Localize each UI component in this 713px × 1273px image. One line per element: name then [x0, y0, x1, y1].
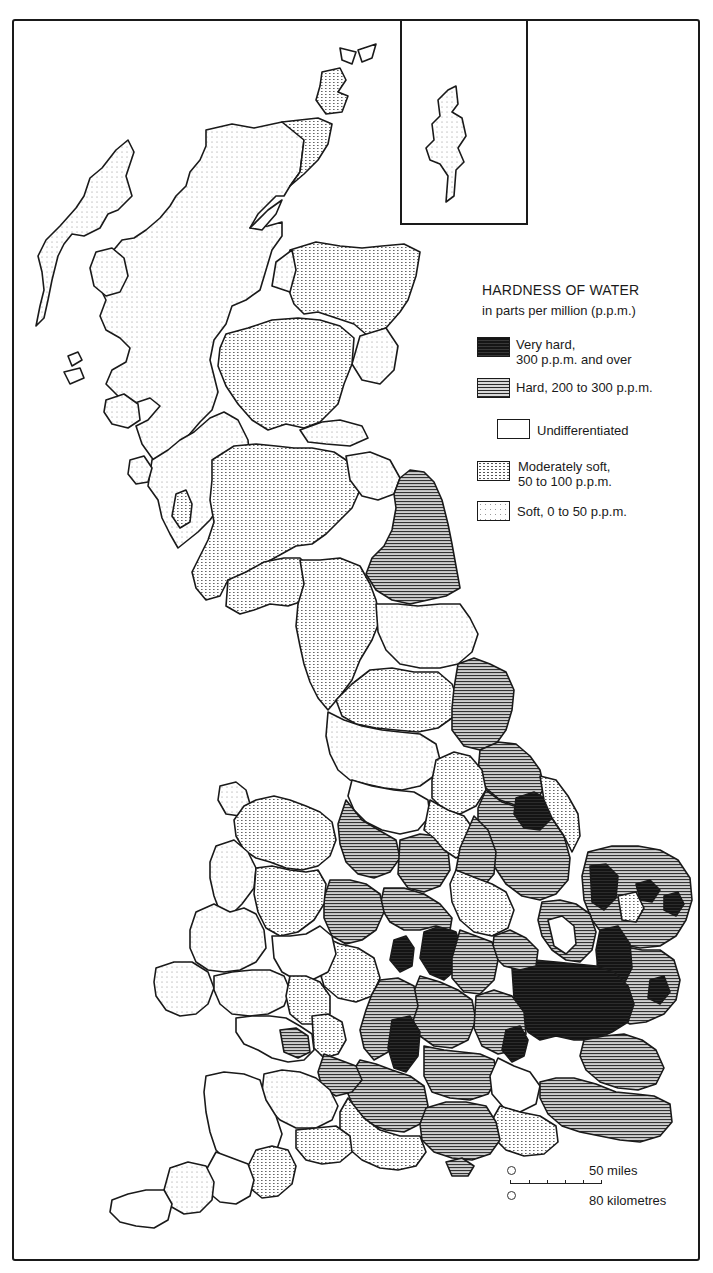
scale-miles-label: 50 miles [589, 1163, 637, 1178]
region-bedfordshire [492, 930, 538, 970]
region-kent [540, 1078, 672, 1142]
soft-swatch [477, 501, 510, 521]
undifferentiated-swatch [497, 419, 530, 439]
region-angus [352, 328, 398, 384]
island-islay [128, 456, 152, 484]
region-west-midlands [380, 888, 452, 930]
region-cardigan [190, 904, 266, 972]
region-pembrokeshire [154, 962, 214, 1016]
region-north-pennines [376, 604, 478, 668]
region-essex-coast [580, 1034, 664, 1090]
moderately-soft-label-1: Moderately soft, [518, 459, 612, 474]
region-north-yorkshire [452, 658, 514, 750]
legend-subtitle: in parts per million (p.p.m.) [482, 302, 697, 319]
hard-label: Hard, 200 to 300 p.p.m. [516, 380, 653, 395]
region-london-undifferentiated [490, 1058, 540, 1112]
undifferentiated-label: Undifferentiated [537, 423, 629, 438]
region-wolverhampton-very-hard [390, 936, 414, 972]
legend-item-very-hard: Very hard, 300 p.p.m. and over [477, 337, 632, 367]
region-sussex [420, 1102, 500, 1160]
region-carmarthen [214, 970, 290, 1016]
region-cornwall-west [110, 1190, 172, 1228]
region-shropshire [324, 880, 384, 944]
region-monmouth [312, 1014, 346, 1058]
region-isle-of-wight [446, 1158, 474, 1176]
region-dorset [296, 1126, 352, 1164]
moderately-soft-label-2: 50 to 100 p.p.m. [518, 474, 612, 489]
legend-item-moderately-soft: Moderately soft, 50 to 100 p.p.m. [477, 459, 612, 489]
very-hard-label-2: 300 p.p.m. and over [516, 352, 632, 367]
region-berkshire [424, 1046, 498, 1100]
legend-item-soft: Soft, 0 to 50 p.p.m. [477, 501, 627, 521]
legend-item-hard: Hard, 200 to 300 p.p.m. [477, 378, 653, 398]
very-hard-label-1: Very hard, [516, 337, 632, 352]
region-perthshire [218, 318, 354, 430]
orkney-islands [316, 68, 348, 114]
very-hard-swatch [477, 337, 510, 357]
scale-bar [510, 1183, 602, 1184]
region-yorkshire-dales [336, 668, 458, 732]
legend-item-undifferentiated: Undifferentiated [497, 419, 629, 439]
moderately-soft-swatch [477, 461, 510, 481]
water-hardness-map [0, 0, 713, 1273]
region-devon-south [246, 1146, 296, 1198]
shetland-islands [426, 86, 466, 202]
map-legend: HARDNESS OF WATER in parts per million (… [482, 282, 697, 319]
region-moray [272, 250, 296, 292]
legend-title: HARDNESS OF WATER [482, 282, 697, 299]
hard-swatch [477, 378, 510, 398]
scale-km-label: 80 kilometres [589, 1193, 666, 1208]
soft-label: Soft, 0 to 50 p.p.m. [517, 504, 627, 519]
map-scale: 50 miles 80 kilometres [505, 1160, 695, 1210]
scale-origin-miles [507, 1166, 516, 1175]
region-northamptonshire [452, 930, 498, 994]
region-cotswold-very-hard [388, 1016, 420, 1072]
scale-origin-km [507, 1191, 516, 1200]
region-powys [254, 866, 326, 936]
